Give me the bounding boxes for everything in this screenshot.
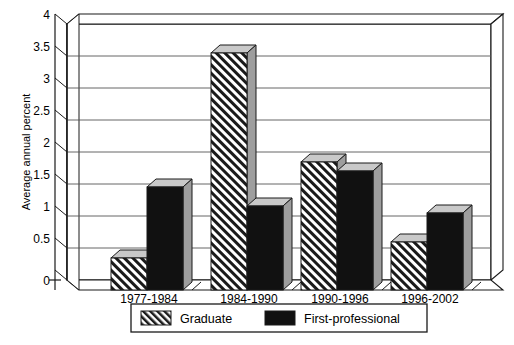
y-tick-label: 0.5: [33, 232, 50, 246]
chart-legend: Graduate First-professional: [131, 304, 427, 332]
bar-first-professional-1984-1990: [247, 198, 292, 290]
legend-label-first-professional: First-professional: [304, 312, 400, 326]
y-tick-label: 0: [43, 274, 50, 288]
y-tick-label: 2: [43, 136, 50, 150]
y-tick-label: 1.5: [33, 168, 50, 182]
bar-first-professional-1977-1984: [147, 179, 192, 290]
y-tick-label: 3: [43, 72, 50, 86]
chart-container: 4 3.5 3 2.5 2 1.5 1 0.5 0 Average annual…: [0, 0, 514, 345]
y-tick-label: 4: [43, 8, 50, 22]
bar-first-professional-1996-2002: [427, 205, 472, 290]
y-tick-label: 3.5: [33, 40, 50, 54]
y-tick-label: 1: [43, 200, 50, 214]
bar-chart: 4 3.5 3 2.5 2 1.5 1 0.5 0 Average annual…: [0, 0, 514, 345]
legend-swatch-graduate: [141, 311, 171, 325]
legend-label-graduate: Graduate: [180, 312, 232, 326]
legend-swatch-first-professional: [265, 311, 295, 325]
bar-first-professional-1990-1996: [337, 163, 382, 290]
y-axis-title: Average annual percent: [20, 94, 32, 211]
bar-group-1990-1996: [301, 154, 382, 290]
y-tick-label: 2.5: [33, 104, 50, 118]
